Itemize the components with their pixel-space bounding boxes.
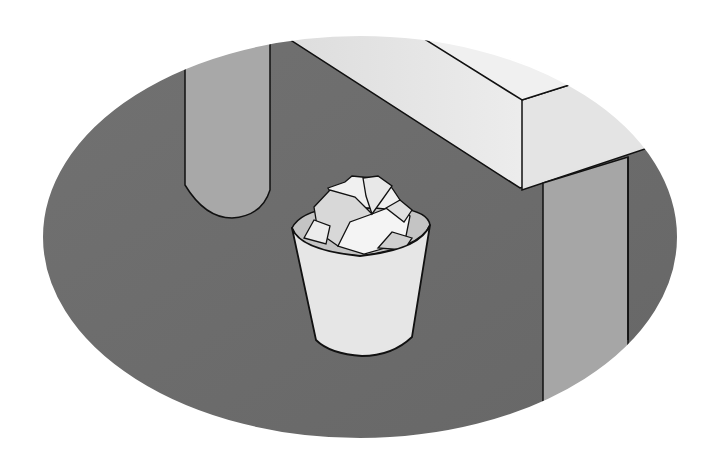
trash-scene-illustration [0, 0, 721, 466]
left-desk-leg [185, 20, 270, 218]
